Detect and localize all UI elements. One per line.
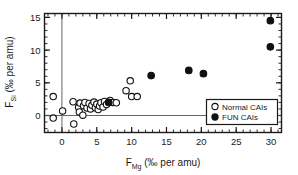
- data-point-fun-cais: [267, 17, 274, 24]
- data-point-normal-cais: [80, 112, 86, 118]
- legend-marker-fun-cais-icon: [212, 114, 218, 120]
- data-point-normal-cais: [134, 93, 140, 99]
- x-tick-label: 30: [266, 136, 277, 147]
- y-tick-label: 0: [35, 110, 40, 121]
- data-point-fun-cais: [200, 70, 207, 77]
- data-point-normal-cais: [50, 115, 56, 121]
- data-point-fun-cais: [267, 44, 274, 51]
- data-point-normal-cais: [123, 87, 129, 93]
- data-point-normal-cais: [59, 108, 65, 114]
- chart-canvas: 051015202530 051015 FMg (‰ per amu) FSi …: [0, 0, 298, 175]
- y-tick-label: 15: [30, 12, 41, 23]
- legend-label-fun-cais: FUN CAIs: [222, 113, 258, 122]
- legend-label-normal-cais: Normal CAIs: [222, 103, 267, 112]
- data-point-normal-cais: [71, 121, 77, 127]
- chart-legend: Normal CAIs FUN CAIs: [207, 100, 278, 125]
- data-point-normal-cais: [50, 93, 56, 99]
- x-tick-label: 0: [59, 136, 64, 147]
- x-tick-label: 15: [161, 136, 172, 147]
- scatter-plot-figure: 051015202530 051015 FMg (‰ per amu) FSi …: [0, 0, 298, 175]
- y-tick-label: 5: [35, 77, 40, 88]
- x-tick-label: 10: [126, 136, 137, 147]
- x-tick-label: 5: [94, 136, 99, 147]
- data-point-normal-cais: [113, 100, 119, 106]
- legend-marker-normal-cais-icon: [212, 103, 218, 109]
- data-point-normal-cais: [70, 99, 76, 105]
- y-tick-label: 10: [30, 45, 41, 56]
- data-point-fun-cais: [148, 72, 155, 79]
- data-point-normal-cais: [127, 78, 133, 84]
- x-tick-label: 20: [196, 136, 207, 147]
- data-point-fun-cais: [105, 99, 112, 106]
- data-point-fun-cais: [185, 67, 192, 74]
- x-tick-label: 25: [231, 136, 242, 147]
